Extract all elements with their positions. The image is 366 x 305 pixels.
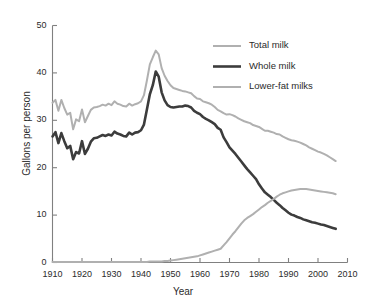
line-chart-plot xyxy=(0,0,366,305)
chart-figure: Gallons per person Year 01020304050 1910… xyxy=(0,0,366,305)
y-tick-label: 20 xyxy=(25,162,47,172)
y-axis-title: Gallons per person xyxy=(21,79,32,189)
x-tick-label: 1980 xyxy=(244,269,274,279)
x-tick-label: 2000 xyxy=(303,269,333,279)
x-tick-label: 2010 xyxy=(333,269,363,279)
x-axis-title: Year xyxy=(0,286,366,297)
x-tick-label: 1930 xyxy=(97,269,127,279)
x-tick-label: 1960 xyxy=(185,269,215,279)
x-tick-label: 1920 xyxy=(67,269,97,279)
legend-swatches xyxy=(213,46,241,87)
y-tick-label: 10 xyxy=(25,209,47,219)
y-tick-label: 30 xyxy=(25,114,47,124)
legend-item-label: Lower-fat milks xyxy=(249,80,313,91)
x-tick-label: 1970 xyxy=(215,269,245,279)
x-tick-label: 1910 xyxy=(38,269,68,279)
x-tick-label: 1940 xyxy=(126,269,156,279)
legend-item-label: Whole milk xyxy=(249,60,295,71)
x-tick-label: 1990 xyxy=(274,269,304,279)
legend-item-label: Total milk xyxy=(249,39,289,50)
x-tick-label: 1950 xyxy=(156,269,186,279)
y-tick-label: 0 xyxy=(25,257,47,267)
y-tick-label: 40 xyxy=(25,67,47,77)
y-tick-label: 50 xyxy=(25,20,47,30)
